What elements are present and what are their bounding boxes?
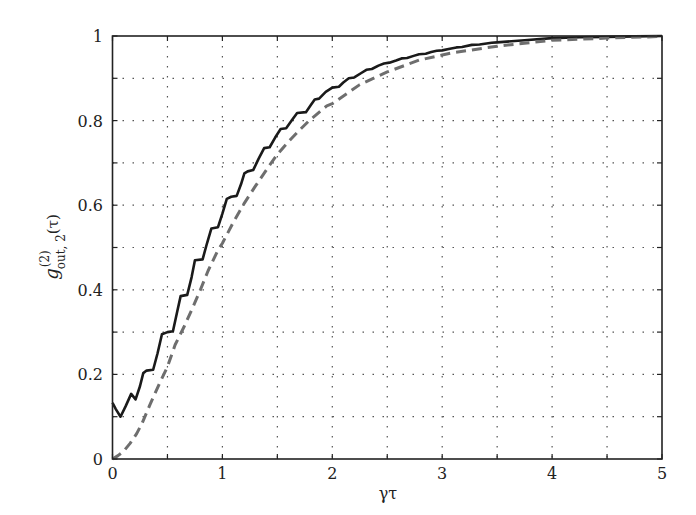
x-tick-label: 5	[657, 464, 667, 483]
x-tick-label: 2	[327, 464, 337, 483]
x-tick-label: 4	[547, 464, 557, 483]
x-axis-label: γτ	[379, 484, 398, 503]
svg-text:g(2)out, 2(τ): g(2)out, 2(τ)	[38, 214, 68, 280]
x-tick-label: 1	[217, 464, 227, 483]
y-tick-label: 0.8	[78, 112, 103, 131]
y-tick-labels: 00.20.40.60.81	[78, 27, 103, 469]
y-tick-label: 0.2	[78, 365, 103, 384]
chart: 012345 00.20.40.60.81 γτ g(2)out, 2(τ)	[0, 0, 696, 515]
y-tick-label: 0	[93, 450, 103, 469]
y-axis-label-sup: (2)	[38, 250, 52, 267]
grid-lines	[113, 36, 663, 459]
dashed-curve	[113, 36, 663, 459]
y-axis-label-arg: (τ)	[44, 214, 62, 234]
y-tick-label: 1	[93, 27, 103, 46]
y-tick-label: 0.4	[78, 281, 103, 300]
y-axis-label-sub: out, 2	[54, 234, 68, 269]
y-tick-label: 0.6	[78, 196, 103, 215]
x-tick-label: 0	[107, 464, 117, 483]
x-tick-labels: 012345	[107, 464, 667, 483]
y-axis-label: g(2)out, 2(τ)	[38, 214, 68, 280]
x-tick-label: 3	[437, 464, 447, 483]
